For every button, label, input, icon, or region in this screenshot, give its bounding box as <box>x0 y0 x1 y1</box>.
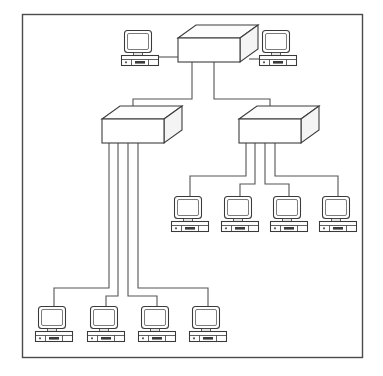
hub-right-hitbox[interactable] <box>237 104 323 146</box>
hub-left-hitbox[interactable] <box>100 104 186 146</box>
pc-bot-1[interactable] <box>33 304 75 344</box>
link-hub-right-to-pc-mid-3[interactable] <box>265 143 289 196</box>
pc-bot-1-hitbox[interactable] <box>33 304 75 344</box>
pc-bot-4-hitbox[interactable] <box>187 304 229 344</box>
link-layer <box>54 57 338 306</box>
network-diagram-canvas <box>0 0 383 376</box>
pc-bot-2[interactable] <box>85 304 127 344</box>
link-hub-left-to-pc-bot-1[interactable] <box>54 143 109 306</box>
link-hub-left-to-pc-bot-2[interactable] <box>106 143 118 306</box>
pc-bot-3-hitbox[interactable] <box>136 304 178 344</box>
network-diagram <box>0 0 383 376</box>
computer-layer <box>33 28 359 344</box>
pc-mid-3[interactable] <box>268 194 310 234</box>
link-hub-right-to-pc-mid-4[interactable] <box>275 143 338 196</box>
pc-top-left[interactable] <box>119 28 161 68</box>
pc-mid-3-hitbox[interactable] <box>268 194 310 234</box>
pc-bot-3[interactable] <box>136 304 178 344</box>
pc-mid-2[interactable] <box>219 194 261 234</box>
hub-left[interactable] <box>100 104 186 146</box>
pc-top-left-hitbox[interactable] <box>119 28 161 68</box>
pc-top-right[interactable] <box>257 28 299 68</box>
pc-bot-2-hitbox[interactable] <box>85 304 127 344</box>
link-hub-right-to-pc-mid-1[interactable] <box>190 143 246 196</box>
link-hub-right-to-pc-mid-2[interactable] <box>240 143 255 196</box>
pc-mid-4-hitbox[interactable] <box>317 194 359 234</box>
pc-mid-1[interactable] <box>169 194 211 234</box>
pc-mid-4[interactable] <box>317 194 359 234</box>
pc-top-right-hitbox[interactable] <box>257 28 299 68</box>
pc-mid-1-hitbox[interactable] <box>169 194 211 234</box>
hub-root-hitbox[interactable] <box>176 23 262 65</box>
pc-mid-2-hitbox[interactable] <box>219 194 261 234</box>
hub-right[interactable] <box>237 104 323 146</box>
pc-bot-4[interactable] <box>187 304 229 344</box>
link-hub-left-to-pc-bot-3[interactable] <box>128 143 157 306</box>
hub-root[interactable] <box>176 23 262 65</box>
